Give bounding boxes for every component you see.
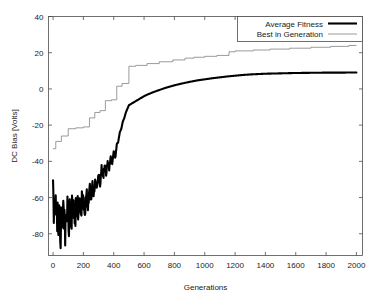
- x-tick-marks: [53, 252, 356, 256]
- x-tick-label: 0: [51, 261, 56, 270]
- x-axis-title: Generations: [184, 283, 228, 292]
- y-axis-title: DC Bias [Volts]: [10, 109, 19, 162]
- x-tick-label: 1800: [317, 261, 335, 270]
- y-tick-label: -20: [32, 121, 44, 130]
- x-tick-label: 800: [168, 261, 182, 270]
- x-tick-label: 400: [107, 261, 121, 270]
- y-tick-label: -80: [32, 230, 44, 239]
- y-tick-label: 40: [35, 13, 44, 22]
- line-chart-svg: 0200400600800100012001400160018002000 40…: [0, 0, 382, 302]
- y-tick-label: 20: [35, 49, 44, 58]
- chart-figure: 0200400600800100012001400160018002000 40…: [0, 0, 382, 302]
- plot-frame: [49, 17, 363, 256]
- x-tick-labels: 0200400600800100012001400160018002000: [51, 261, 366, 270]
- x-tick-label: 600: [137, 261, 151, 270]
- x-tick-label: 2000: [348, 261, 366, 270]
- x-tick-label: 1000: [196, 261, 214, 270]
- y-tick-marks: [49, 17, 53, 234]
- chart-legend: Average Fitness Best in Generation: [238, 17, 363, 42]
- legend-label-average-fitness: Average Fitness: [265, 20, 323, 29]
- x-tick-label: 1200: [226, 261, 244, 270]
- y-tick-label: -60: [32, 194, 44, 203]
- series-average-fitness: [53, 72, 356, 248]
- x-tick-label: 1600: [287, 261, 305, 270]
- x-tick-label: 1400: [257, 261, 275, 270]
- legend-label-best-in-generation: Best in Generation: [257, 30, 323, 39]
- y-tick-labels: 40200-20-40-60-80: [32, 13, 44, 239]
- y-tick-label: 0: [39, 85, 44, 94]
- x-tick-label: 200: [77, 261, 91, 270]
- series-best-in-generation: [53, 45, 356, 148]
- y-tick-label: -40: [32, 157, 44, 166]
- y-tick-marks-right: [359, 17, 363, 234]
